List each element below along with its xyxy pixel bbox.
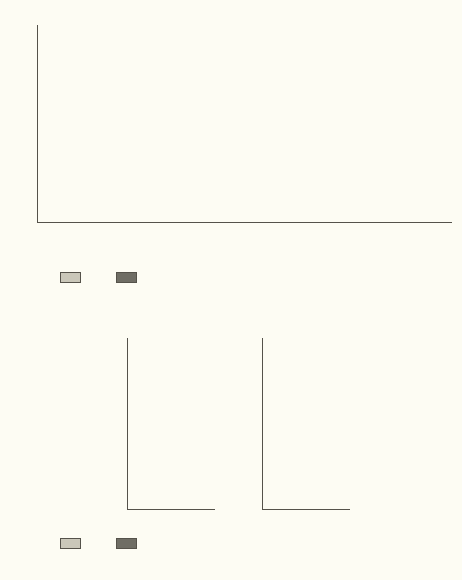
suspensions-chart-plot-area xyxy=(262,338,350,510)
crimes-chart-y-axis xyxy=(96,338,124,510)
crimes-chart-plot-area xyxy=(127,338,215,510)
top-chart-y-axis xyxy=(0,25,31,223)
top-chart-axis-line-bottom xyxy=(37,222,452,223)
legend-entry-charter xyxy=(60,272,87,283)
suspensions-chart-axis-line-bottom xyxy=(262,509,350,510)
legend-entry-district-bottom xyxy=(116,538,143,549)
legend-entry-district xyxy=(116,272,143,283)
crimes-chart-axis-line-bottom xyxy=(127,509,215,510)
top-chart-bars xyxy=(37,25,452,222)
legend-swatch-charter-icon xyxy=(60,272,81,283)
legend-swatch-district-icon xyxy=(116,538,137,549)
suspensions-chart-bars xyxy=(262,338,350,509)
legend-swatch-district-icon xyxy=(116,272,137,283)
suspensions-chart-y-axis xyxy=(231,338,259,510)
legend-entry-charter-bottom xyxy=(60,538,87,549)
top-chart-axis-line-left xyxy=(37,25,38,223)
top-chart-legend xyxy=(60,272,143,283)
top-chart-plot-area xyxy=(37,25,452,223)
legend-swatch-charter-icon xyxy=(60,538,81,549)
suspensions-chart-axis-line-left xyxy=(262,338,263,510)
chart-page: { "page": { "background": "#fdfcf3", "se… xyxy=(0,0,462,580)
crimes-chart-axis-line-left xyxy=(127,338,128,510)
crimes-chart-bars xyxy=(127,338,215,509)
bottom-charts-legend xyxy=(60,538,143,549)
